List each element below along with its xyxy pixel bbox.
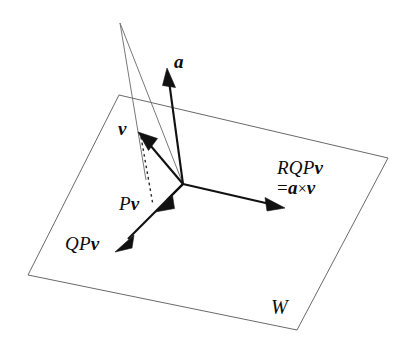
cross-product-icon: × bbox=[298, 180, 307, 197]
wall-left-edge bbox=[120, 23, 146, 180]
label-rqpv-equals: = bbox=[277, 177, 288, 198]
wall-right-edge bbox=[120, 23, 183, 184]
label-rqpv-line2: =a×v bbox=[277, 178, 323, 197]
label-vector-a: a bbox=[174, 52, 184, 71]
vector-rqpv-arrowhead bbox=[265, 198, 285, 212]
vector-rqpv-shaft bbox=[183, 184, 270, 204]
label-rqpv-v: v bbox=[307, 177, 316, 198]
label-pv-operator: P bbox=[119, 193, 131, 214]
label-plane-w: W bbox=[271, 297, 288, 317]
label-vector-qpv: QPv bbox=[65, 234, 99, 253]
vector-diagram-canvas bbox=[0, 0, 410, 347]
label-rqpv-vector: v bbox=[315, 157, 324, 178]
figure-root: a v Pv QPv RQPv=a×v W bbox=[0, 0, 410, 347]
label-pv-vector: v bbox=[131, 193, 140, 214]
label-vector-pv: Pv bbox=[119, 194, 139, 213]
label-rqpv-line1: RQPv bbox=[277, 157, 323, 178]
vector-qpv-arrowhead bbox=[115, 235, 134, 252]
label-rqpv-a: a bbox=[288, 177, 298, 198]
label-qpv-vector: v bbox=[91, 233, 100, 254]
label-rqpv-operator: RQP bbox=[277, 157, 315, 178]
label-vector-rqpv: RQPv=a×v bbox=[277, 158, 323, 198]
label-vector-v: v bbox=[118, 119, 127, 138]
label-qpv-operator: QP bbox=[65, 233, 91, 254]
plane-w-outline bbox=[28, 95, 388, 330]
